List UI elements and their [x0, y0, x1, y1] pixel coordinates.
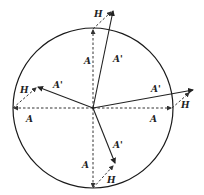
vector-group-down: A A' H [81, 108, 123, 188]
vector-A-prime-left [38, 87, 93, 108]
vector-diagram: A A' H A A' H A A' H A A' H [0, 0, 204, 195]
center-point [92, 107, 94, 109]
label-A-prime-right: A' [150, 84, 161, 94]
label-H-down: H [106, 175, 116, 185]
label-A-prime-up: A' [112, 54, 123, 64]
label-H-right: H [180, 100, 190, 110]
label-A-right: A [149, 114, 157, 124]
label-A-prime-down: A' [112, 140, 123, 150]
vector-A-prime-right [93, 90, 193, 108]
vector-A-prime-down [93, 108, 115, 163]
vector-group-up: A A' H [83, 9, 123, 108]
label-A-up: A [83, 56, 91, 66]
vector-group-left: A A' H [13, 80, 93, 124]
label-A-left: A [25, 114, 33, 124]
vector-group-right: A A' H [93, 84, 193, 124]
label-A-down: A [81, 160, 89, 170]
label-H-left: H [19, 85, 29, 95]
label-H-up: H [93, 9, 103, 19]
label-A-prime-left: A' [52, 80, 63, 90]
